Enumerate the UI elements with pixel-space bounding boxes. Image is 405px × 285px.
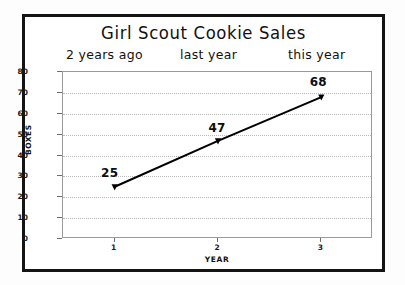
annotation-this-year: this year [288, 47, 345, 63]
annotation-last-year: last year [180, 47, 237, 63]
x-tick-label: 2 [202, 243, 232, 252]
y-tick-label: 0 [2, 234, 28, 243]
data-series-line [63, 72, 373, 239]
data-point-label: 25 [101, 165, 118, 180]
y-tick-label: 10 [2, 213, 28, 222]
chart-title: Girl Scout Cookie Sales [22, 23, 385, 43]
y-tick-label: 60 [2, 108, 28, 117]
x-axis-title: YEAR [62, 255, 372, 264]
plot-area [62, 71, 372, 238]
y-tick-mark [57, 238, 62, 239]
y-tick-label: 70 [2, 87, 28, 96]
y-tick-label: 80 [2, 67, 28, 76]
y-tick-label: 40 [2, 150, 28, 159]
chart-image: Girl Scout Cookie Sales 2 years ago last… [0, 0, 405, 285]
data-point-label: 68 [310, 75, 327, 90]
y-tick-label: 50 [2, 129, 28, 138]
y-tick-label: 30 [2, 171, 28, 180]
data-point-label: 47 [208, 121, 225, 136]
y-tick-label: 20 [2, 192, 28, 201]
x-tick-label: 1 [99, 243, 129, 252]
annotation-two-years-ago: 2 years ago [66, 47, 143, 63]
x-tick-label: 3 [305, 243, 335, 252]
